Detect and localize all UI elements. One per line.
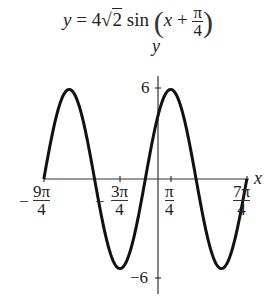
x-tick-label-2: π4 (165, 183, 174, 218)
x-axis-label: x (254, 170, 262, 187)
x-tick-sign-0: − (19, 193, 29, 210)
y-axis-label: y (152, 38, 160, 55)
tick-num: π (165, 183, 174, 201)
x-tick-label-1: 3π4 (111, 183, 128, 218)
y-tick-label-6: 6 (141, 79, 150, 96)
x-tick-label-0: 9π4 (33, 183, 50, 218)
tick-den: 4 (165, 200, 174, 219)
tick-num: 3π (111, 183, 128, 201)
tick-den: 4 (115, 200, 124, 219)
x-tick-label-3: 7π4 (233, 183, 250, 218)
tick-den: 4 (37, 200, 46, 219)
y-tick-label-neg6: −6 (130, 269, 148, 286)
tick-den: 4 (237, 200, 246, 219)
plot-area (0, 0, 276, 307)
x-tick-sign-1: − (95, 193, 105, 210)
tick-num: 7π (233, 183, 250, 201)
tick-num: 9π (33, 183, 50, 201)
